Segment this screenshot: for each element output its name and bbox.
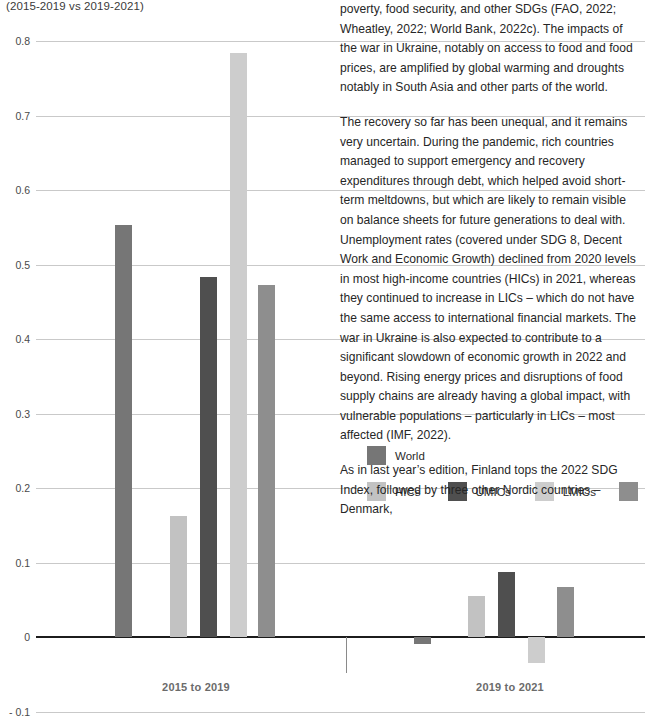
bar-lics-group-2 xyxy=(557,587,574,637)
y-axis-tick-label: 0.1 xyxy=(0,557,30,569)
bar-world-group-1 xyxy=(115,225,132,637)
y-axis-tick-label: - 0.1 xyxy=(0,706,30,718)
x-axis-category-label: 2019 to 2021 xyxy=(476,681,544,693)
paragraph-2: The recovery so far has been unequal, an… xyxy=(340,113,638,446)
page-root: (2015-2019 vs 2019-2021) 0.80.70.60.50.4… xyxy=(0,0,645,720)
bar-lmics-group-1 xyxy=(230,53,247,637)
y-axis-tick-label: 0.8 xyxy=(0,35,30,47)
bar-hics-group-2 xyxy=(468,596,485,637)
bar-world-group-2 xyxy=(414,637,431,644)
y-axis-tick-label: 0 xyxy=(0,631,30,643)
bar-lmics-group-2 xyxy=(528,637,545,663)
bar-umics-group-2 xyxy=(498,572,515,637)
paragraph-1: poverty, food security, and other SDGs (… xyxy=(340,0,638,98)
y-axis-tick-label: 0.5 xyxy=(0,259,30,271)
body-text-column: poverty, food security, and other SDGs (… xyxy=(340,0,638,535)
paragraph-3: As in last year’s edition, Finland tops … xyxy=(340,461,638,520)
y-axis-tick-label: 0.7 xyxy=(0,110,30,122)
bar-lics-group-1 xyxy=(258,285,275,637)
y-axis-tick-label: 0.4 xyxy=(0,333,30,345)
bar-umics-group-1 xyxy=(200,277,217,637)
y-axis-tick-label: 0.2 xyxy=(0,482,30,494)
y-axis-tick-label: 0.6 xyxy=(0,184,30,196)
y-axis-tick-label: 0.3 xyxy=(0,408,30,420)
group-separator-tick xyxy=(346,637,347,673)
gridline xyxy=(36,712,645,713)
bar-hics-group-1 xyxy=(170,516,187,637)
x-axis-category-label: 2015 to 2019 xyxy=(162,681,230,693)
